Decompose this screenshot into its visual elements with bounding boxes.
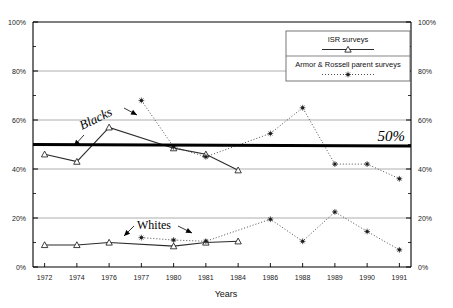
x-axis-label-1981: 1981: [198, 274, 214, 281]
y-axis-label-left-0: 0%: [16, 264, 26, 271]
x-axis-label-1989: 1989: [327, 274, 343, 281]
x-axis-label-1977: 1977: [134, 274, 150, 281]
legend-label: ISR surveys: [328, 35, 369, 44]
reference-line-label: 50%: [378, 128, 406, 144]
y-axis-label-right-0: 0%: [418, 264, 428, 271]
x-axis-label-1991: 1991: [392, 274, 408, 281]
y-axis-label-left-40: 40%: [12, 166, 26, 173]
y-axis-label-right-100: 100%: [418, 19, 436, 26]
x-axis-label-1988: 1988: [295, 274, 311, 281]
x-axis-label-1976: 1976: [101, 274, 117, 281]
annotation-whites: Whites: [137, 218, 171, 232]
reference-line: [33, 145, 411, 147]
legend-marker-dot-asterisk: [345, 72, 351, 78]
y-axis-label-right-80: 80%: [418, 68, 432, 75]
y-axis-label-right-60: 60%: [418, 117, 432, 124]
x-axis-label-1974: 1974: [69, 274, 85, 281]
line-chart: 100%80%60%40%20%0% 100%80%60%40%20%0% 19…: [0, 0, 453, 308]
x-axis-label-1984: 1984: [230, 274, 246, 281]
x-axis-label-1990: 1990: [359, 274, 375, 281]
legend-label: Armor & Rossell parent surveys: [295, 60, 401, 69]
y-axis-label-left-80: 80%: [12, 68, 26, 75]
y-axis-label-left-60: 60%: [12, 117, 26, 124]
x-axis-label-1986: 1986: [263, 274, 279, 281]
x-axis-title: Years: [215, 289, 238, 299]
chart-container: 100%80%60%40%20%0% 100%80%60%40%20%0% 19…: [0, 0, 453, 308]
legend-entry-isr[interactable]: ISR surveys: [322, 35, 374, 52]
x-axis-label-1972: 1972: [37, 274, 53, 281]
y-axis-label-left-20: 20%: [12, 215, 26, 222]
y-axis-label-left-100: 100%: [8, 19, 26, 26]
y-axis-label-right-20: 20%: [418, 215, 432, 222]
y-axis-label-right-40: 40%: [418, 166, 432, 173]
x-axis-label-1980: 1980: [166, 274, 182, 281]
chart-legend[interactable]: ISR surveysArmor & Rossell parent survey…: [286, 31, 410, 81]
